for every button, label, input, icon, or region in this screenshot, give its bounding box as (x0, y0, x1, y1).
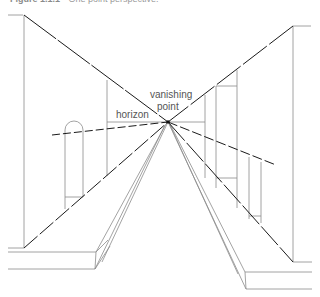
label-horizon: horizon (116, 109, 149, 120)
label-point: point (157, 101, 179, 112)
building-edges (8, 15, 312, 289)
one-point-perspective-diagram: vanishing point horizon (0, 0, 320, 297)
label-vanishing: vanishing (150, 89, 192, 100)
vanishing-point-marker (166, 120, 170, 124)
